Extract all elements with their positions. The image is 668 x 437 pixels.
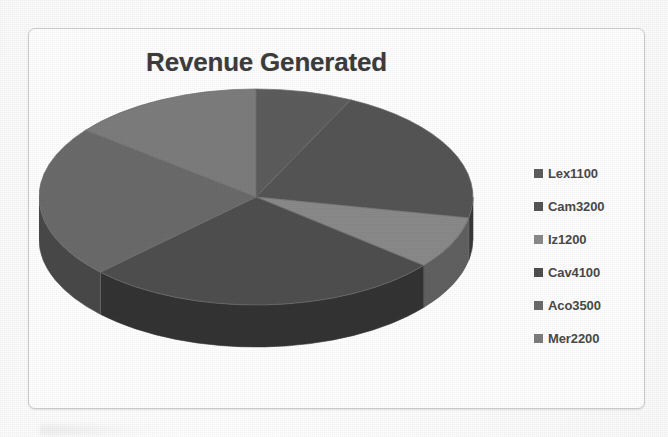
legend-item-label: Aco3500 — [548, 298, 601, 313]
legend-item-label: Cav4100 — [548, 265, 600, 280]
legend-swatch-icon — [534, 268, 543, 277]
legend-swatch-icon — [534, 334, 543, 343]
pie-chart-plot-area — [39, 87, 509, 397]
pie-chart-svg — [39, 87, 509, 397]
legend-swatch-icon — [534, 235, 543, 244]
chart-legend: Lex1100 Cam3200 Iz1200 Cav4100 Aco3500 M… — [534, 157, 654, 355]
legend-item-label: Iz1200 — [548, 232, 586, 247]
legend-item[interactable]: Mer2200 — [534, 322, 654, 355]
legend-item[interactable]: Aco3500 — [534, 289, 654, 322]
pie-top-slices — [39, 89, 473, 305]
legend-item[interactable]: Cam3200 — [534, 190, 654, 223]
legend-item-label: Mer2200 — [548, 331, 599, 346]
legend-swatch-icon — [534, 202, 543, 211]
scan-smudge — [40, 425, 160, 435]
legend-swatch-icon — [534, 301, 543, 310]
legend-item[interactable]: Cav4100 — [534, 256, 654, 289]
legend-item-label: Cam3200 — [548, 199, 604, 214]
legend-item-label: Lex1100 — [548, 166, 598, 181]
legend-item[interactable]: Iz1200 — [534, 223, 654, 256]
chart-title: Revenue Generated — [29, 47, 504, 78]
chart-card: Revenue Generated Lex1100 Cam3200 Iz1200 — [28, 28, 645, 409]
legend-swatch-icon — [534, 169, 543, 178]
legend-item[interactable]: Lex1100 — [534, 157, 654, 190]
